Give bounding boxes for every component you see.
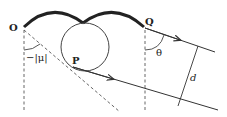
rolling-circle: [61, 23, 109, 71]
label-mu: −|μ|: [26, 53, 48, 63]
cycloid-arc-right: [83, 12, 144, 27]
diagram: O Q P −|μ| θ d: [0, 0, 227, 117]
label-d: d: [190, 73, 196, 83]
label-theta: θ: [156, 48, 162, 58]
label-Q: Q: [145, 17, 154, 27]
label-O: O: [9, 23, 18, 33]
cycloid-arc-left: [24, 12, 83, 27]
diagonal-dashed: [24, 30, 120, 112]
label-P: P: [72, 56, 80, 66]
angle-arc-mu: [24, 44, 40, 50]
